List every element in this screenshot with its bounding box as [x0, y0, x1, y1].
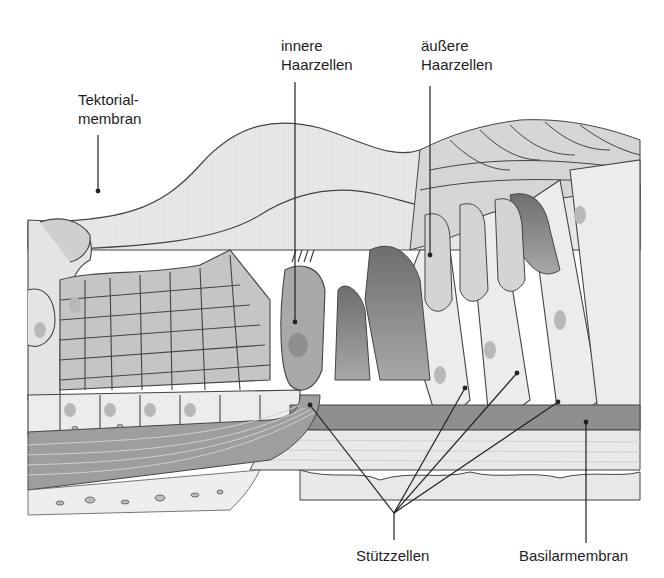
label-tektorialmembran-line2: membran: [78, 109, 141, 128]
cochlea-organ-of-corti-diagram: [0, 0, 664, 578]
inner-sulcus-cells: [60, 250, 270, 390]
label-basilarmembran: Basilarmembran: [519, 546, 628, 565]
label-aeussere-haarzellen: äußere Haarzellen: [421, 36, 493, 74]
label-tektorialmembran: Tektorial- membran: [78, 90, 141, 128]
label-innere-haarzellen-line1: innere: [281, 36, 353, 55]
label-basilarmembran-text: Basilarmembran: [519, 546, 628, 565]
label-aeussere-haarzellen-line1: äußere: [421, 36, 493, 55]
label-innere-haarzellen-line2: Haarzellen: [281, 55, 353, 74]
label-tektorialmembran-line1: Tektorial-: [78, 90, 141, 109]
inner-hair-cell: [281, 250, 325, 390]
label-stuetzzellen-text: Stützzellen: [356, 546, 429, 565]
label-innere-haarzellen: innere Haarzellen: [281, 36, 353, 74]
label-stuetzzellen: Stützzellen: [356, 546, 429, 565]
label-aeussere-haarzellen-line2: Haarzellen: [421, 55, 493, 74]
